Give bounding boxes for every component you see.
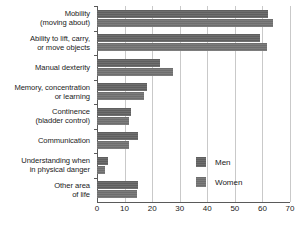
bar-women	[97, 117, 129, 125]
bar-men	[97, 59, 160, 67]
bar-group	[97, 59, 290, 76]
bar-women	[97, 166, 105, 174]
bar-group	[97, 108, 290, 125]
x-tick-label-50: 50	[230, 204, 239, 213]
category-label-manual-dexterity: Manual dexterity	[0, 63, 90, 72]
bar-men	[97, 132, 138, 140]
x-tick-label-40: 40	[203, 204, 212, 213]
bar-group	[97, 132, 290, 149]
x-tick-label-30: 30	[175, 204, 184, 213]
x-tick-label-70: 70	[286, 204, 295, 213]
x-tick-label-10: 10	[120, 204, 129, 213]
category-label-communication: Communication	[0, 136, 90, 145]
bar-men	[97, 10, 268, 18]
category-label-memory: Memory, concentration or learning	[0, 83, 90, 101]
legend-item-men: Men	[196, 152, 276, 172]
bar-men	[97, 181, 138, 189]
bar-men	[97, 108, 131, 116]
bar-women	[97, 92, 144, 100]
x-axis-labels: 010203040506070	[97, 204, 290, 218]
category-label-lift-carry: Ability to lift, carry, or move objects	[0, 34, 90, 52]
category-label-continence: Continence (bladder control)	[0, 107, 90, 125]
bar-women	[97, 190, 137, 198]
x-tick-label-20: 20	[148, 204, 157, 213]
x-tick-label-60: 60	[258, 204, 267, 213]
women-legend-swatch	[196, 177, 206, 187]
bar-women	[97, 19, 273, 27]
bar-group	[97, 34, 290, 51]
category-label-understanding: Understanding when in physical danger	[0, 156, 90, 174]
legend: Men Women	[196, 152, 276, 192]
bar-men	[97, 34, 260, 42]
category-axis: Mobility (moving about) Ability to lift,…	[0, 6, 94, 202]
legend-label-women: Women	[215, 178, 242, 187]
category-label-other-area: Other area of life	[0, 181, 90, 199]
bar-group	[97, 10, 290, 27]
gridline-70	[290, 6, 291, 202]
bar-chart: Mobility (moving about) Ability to lift,…	[0, 0, 304, 235]
bar-women	[97, 141, 129, 149]
x-tick-label-0: 0	[95, 204, 99, 213]
bar-group	[97, 83, 290, 100]
legend-item-women: Women	[196, 172, 276, 192]
bar-men	[97, 83, 147, 91]
men-legend-swatch	[196, 157, 206, 167]
category-label-mobility: Mobility (moving about)	[0, 9, 90, 27]
legend-label-men: Men	[215, 158, 231, 167]
bar-women	[97, 68, 173, 76]
bar-women	[97, 43, 267, 51]
x-axis-line	[97, 202, 290, 203]
bar-men	[97, 157, 108, 165]
